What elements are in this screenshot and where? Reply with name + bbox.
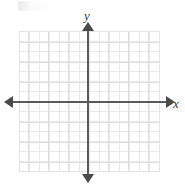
x-axis-label: x: [173, 97, 179, 110]
x-axis-left-arrow-icon: [4, 96, 13, 108]
y-axis-bottom-arrow-icon: [82, 174, 94, 183]
y-axis-top-arrow-icon: [82, 22, 94, 31]
y-axis-line: [87, 27, 89, 182]
coordinate-plane-figure: x y: [0, 0, 185, 187]
y-axis-label: y: [84, 9, 90, 22]
top-edge-artifact: [18, 1, 76, 11]
x-axis-line: [11, 101, 171, 103]
